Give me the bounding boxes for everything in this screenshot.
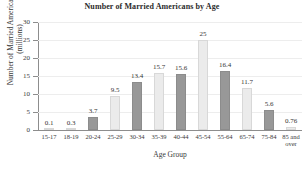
- x-axis-tick-label: 55-64: [214, 133, 236, 140]
- bar: [110, 96, 120, 130]
- bar: [220, 71, 230, 130]
- chart-title: Number of Married Americans by Age: [0, 2, 304, 11]
- plot-area: 0.10.33.79.513.415.715.62516.411.75.60.7…: [38, 22, 302, 130]
- bar: [132, 82, 142, 130]
- x-axis-title: Age Group: [38, 150, 302, 159]
- x-axis-tick-label: 85 and over: [280, 133, 302, 147]
- bar-value-label: 5.6: [258, 101, 280, 108]
- bar: [66, 128, 76, 130]
- bar-value-label: 3.7: [82, 108, 104, 115]
- x-axis-tick-label: 45-54: [192, 133, 214, 140]
- y-axis-tick-label: 0: [0, 127, 30, 134]
- bar-value-label: 0.76: [280, 118, 302, 125]
- bar: [88, 117, 98, 130]
- bar-value-label: 13.4: [126, 73, 148, 80]
- bar: [242, 88, 252, 130]
- y-axis-tick-label: 25: [0, 37, 30, 44]
- bar-value-label: 15.6: [170, 65, 192, 72]
- bar-chart: Number of Married Americans by Age Numbe…: [0, 0, 304, 172]
- bar-value-label: 15.7: [148, 64, 170, 71]
- x-axis-tick-label: 35-39: [148, 133, 170, 140]
- x-axis-tick-label: 30-34: [126, 133, 148, 140]
- bar-value-label: 0.1: [38, 120, 60, 127]
- y-axis-tick: [33, 130, 38, 131]
- bar: [176, 74, 186, 130]
- bar-value-label: 0.3: [60, 120, 82, 127]
- x-axis-tick-label: 75-84: [258, 133, 280, 140]
- x-axis-tick-label: 25-29: [104, 133, 126, 140]
- bar: [154, 73, 164, 130]
- bar-value-label: 11.7: [236, 79, 258, 86]
- y-axis-tick-label: 20: [0, 55, 30, 62]
- x-axis-tick-label: 15-17: [38, 133, 60, 140]
- y-axis-tick-label: 15: [0, 73, 30, 80]
- bar: [264, 110, 274, 130]
- x-axis-tick-label: 18-19: [60, 133, 82, 140]
- y-axis-tick-label: 5: [0, 109, 30, 116]
- x-axis-tick-label: 40-44: [170, 133, 192, 140]
- x-axis-tick-label: 65-74: [236, 133, 258, 140]
- bar-value-label: 9.5: [104, 87, 126, 94]
- bar: [44, 128, 54, 130]
- bar-value-label: 25: [192, 31, 214, 38]
- bar: [286, 127, 296, 130]
- y-axis-tick-label: 10: [0, 91, 30, 98]
- bar: [198, 40, 208, 130]
- bar-value-label: 16.4: [214, 62, 236, 69]
- y-axis-tick-label: 30: [0, 19, 30, 26]
- x-axis-line: [38, 130, 302, 131]
- x-axis-tick-label: 20-24: [82, 133, 104, 140]
